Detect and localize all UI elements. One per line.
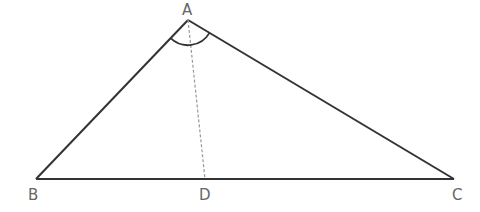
vertex-label-a: A <box>182 1 193 19</box>
vertex-label-d: D <box>199 186 211 204</box>
angle-arc-a <box>171 33 210 45</box>
segment-ac <box>188 20 454 179</box>
vertex-label-c: C <box>452 186 462 204</box>
segment-ab <box>36 20 188 179</box>
vertex-label-b: B <box>28 186 38 204</box>
triangle-diagram: A B C D <box>0 0 480 212</box>
